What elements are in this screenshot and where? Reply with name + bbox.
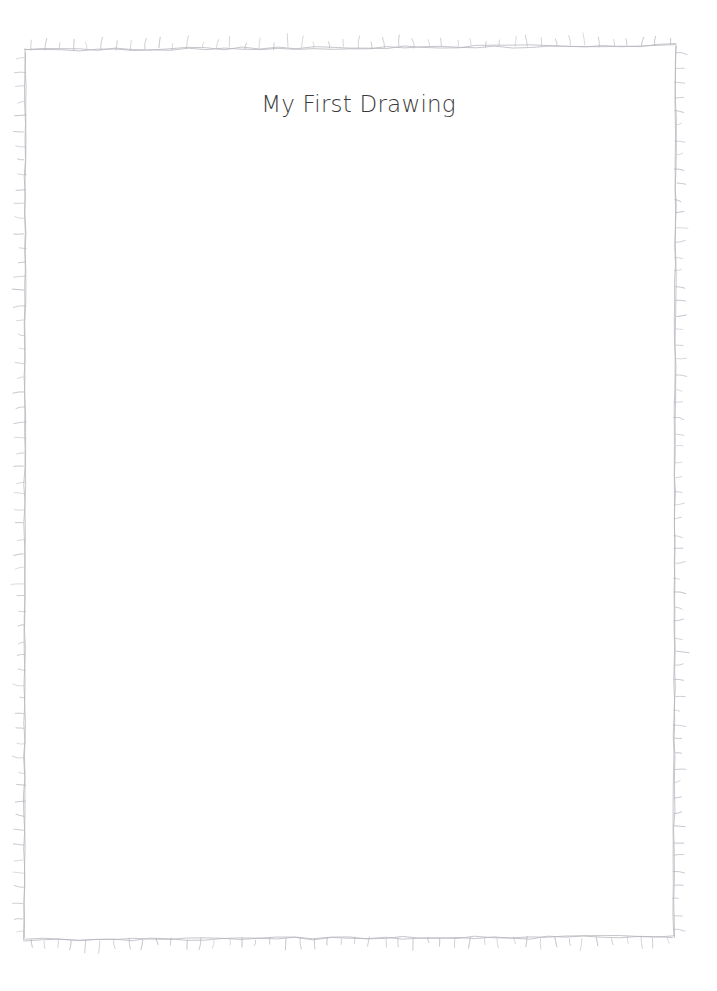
page-title: My First Drawing	[0, 92, 717, 116]
drawing-area-blank[interactable]	[26, 50, 674, 938]
drawing-canvas[interactable]: My First Drawing	[0, 0, 717, 991]
